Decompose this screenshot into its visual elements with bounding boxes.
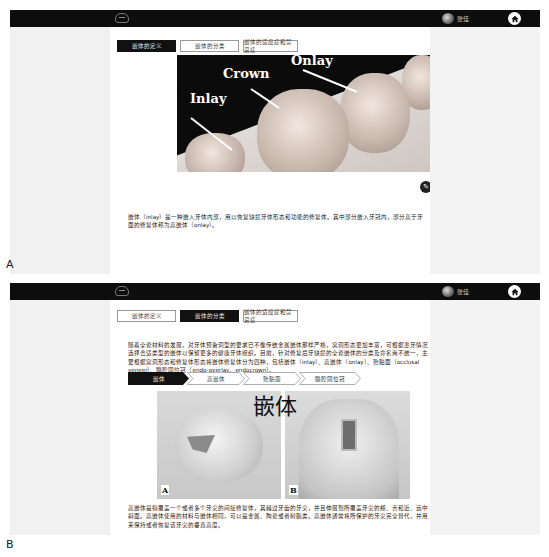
- right-gutter: [430, 300, 540, 535]
- screenshot-panel-b: 张佳 嵌体的定义 嵌体的分类 嵌体的适应症和禁忌症 随着全瓷材料的发展，对牙体预…: [10, 283, 540, 535]
- user-avatar[interactable]: [442, 286, 454, 297]
- image-label-inlay: Inlay: [190, 91, 226, 106]
- user-avatar[interactable]: [442, 13, 454, 24]
- right-gutter: [430, 27, 540, 274]
- classification-steps: 嵌体 高嵌体 殆贴面 髓腔固位冠: [128, 372, 361, 385]
- image-label-crown: Crown: [223, 66, 270, 81]
- inlay-definition-text: 嵌体（inlay）是一种嵌入牙体内部，用以恢复缺损牙体形态和功能的修复体。其中部…: [128, 213, 428, 230]
- home-icon: [511, 15, 519, 23]
- tab-indications-contraindications[interactable]: 嵌体的适应症和禁忌症: [243, 40, 298, 52]
- step-inlay[interactable]: 嵌体: [128, 372, 189, 385]
- onlay-description-text: 高嵌体是指覆盖一个或者多个牙尖的间接修复体，其越过牙齿的牙尖，并且伸展到所覆盖牙…: [128, 504, 428, 529]
- panel-label-a: A: [6, 258, 14, 271]
- screenshot-panel-a: 张佳 嵌体的定义 嵌体的分类 嵌体的适应症和禁忌症 Inlay Crown On…: [10, 10, 540, 274]
- tab-inlay-definition[interactable]: 嵌体的定义: [117, 310, 176, 322]
- home-button[interactable]: [508, 12, 521, 25]
- figure-label-b: B: [289, 485, 298, 495]
- inlay-crown-onlay-photo: Inlay Crown Onlay: [177, 55, 433, 172]
- section-tabs: 嵌体的定义 嵌体的分类 嵌体的适应症和禁忌症: [117, 310, 298, 322]
- step-occlusal-veneer[interactable]: 殆贴面: [243, 372, 301, 385]
- figure-label-a: A: [161, 485, 169, 495]
- figure-title: 嵌体: [253, 388, 297, 420]
- home-button[interactable]: [508, 285, 521, 298]
- step-endocrown[interactable]: 髓腔固位冠: [299, 372, 361, 385]
- step-onlay[interactable]: 高嵌体: [187, 372, 245, 385]
- user-name[interactable]: 张佳: [457, 14, 469, 23]
- section-tabs: 嵌体的定义 嵌体的分类 嵌体的适应症和禁忌症: [117, 40, 298, 52]
- tooth-logo-icon[interactable]: [115, 13, 129, 23]
- pencil-icon: ✎: [423, 183, 429, 191]
- user-name[interactable]: 张佳: [457, 287, 469, 296]
- tab-inlay-definition[interactable]: 嵌体的定义: [117, 40, 176, 52]
- panel-label-b: B: [6, 538, 14, 551]
- top-nav-bar: 张佳: [10, 10, 540, 27]
- content-area: 嵌体的定义 嵌体的分类 嵌体的适应症和禁忌症 随着全瓷材料的发展，对牙体预备洞型…: [110, 300, 430, 535]
- content-area: 嵌体的定义 嵌体的分类 嵌体的适应症和禁忌症 Inlay Crown Onlay…: [110, 27, 430, 274]
- inlay-figure-b: B: [285, 391, 410, 499]
- tooth-logo-icon[interactable]: [115, 286, 129, 296]
- tab-inlay-classification[interactable]: 嵌体的分类: [180, 310, 239, 322]
- tab-indications-contraindications[interactable]: 嵌体的适应症和禁忌症: [243, 310, 298, 322]
- tab-inlay-classification[interactable]: 嵌体的分类: [180, 40, 239, 52]
- image-label-onlay: Onlay: [291, 55, 333, 68]
- home-icon: [511, 288, 519, 296]
- classification-intro-text: 随着全瓷材料的发展，对牙体预备洞型的要求已不像传统金属嵌体那样严格，窝洞形态更加…: [128, 341, 428, 374]
- top-nav-bar: 张佳: [10, 283, 540, 300]
